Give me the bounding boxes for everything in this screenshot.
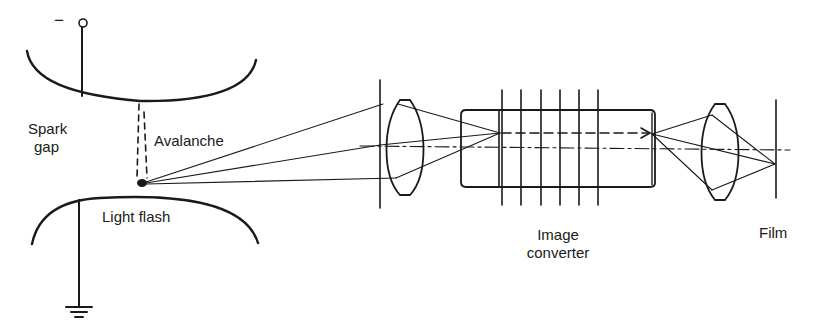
optical-axis bbox=[360, 146, 790, 150]
spark-gap-optical-diagram bbox=[0, 0, 813, 334]
spark-gap-label: Spark gap bbox=[28, 120, 67, 156]
top-electrode bbox=[27, 51, 256, 101]
converging-rays bbox=[380, 104, 500, 178]
ground-icon bbox=[66, 200, 92, 317]
image-converter-label-line1: Image bbox=[513, 226, 603, 244]
image-converter-label-line2: converter bbox=[513, 244, 603, 262]
light-flash-label: Light flash bbox=[102, 208, 170, 226]
film-label: Film bbox=[759, 224, 787, 242]
terminal-sign-label: − bbox=[54, 12, 64, 30]
spark-gap-label-line2: gap bbox=[28, 138, 67, 156]
spark-gap-label-line1: Spark bbox=[28, 120, 67, 138]
relay-lens bbox=[702, 104, 739, 200]
avalanche-label: Avalanche bbox=[154, 132, 224, 150]
avalanche-streamer bbox=[137, 104, 147, 178]
image-converter-label: Image converter bbox=[513, 226, 603, 262]
negative-terminal bbox=[79, 19, 87, 96]
relay-rays bbox=[652, 115, 775, 190]
